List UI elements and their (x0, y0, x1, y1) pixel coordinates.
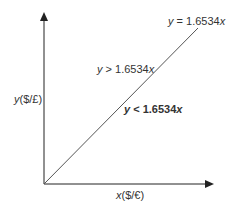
label-unit: ($/£) (20, 93, 43, 105)
y-axis-label: y($/£) (14, 94, 42, 105)
region-below-label: y < 1.6534x (124, 104, 182, 115)
label-text: > 1.6534 (103, 63, 149, 75)
exchange-rate-diagram: y = 1.6534x y > 1.6534x y < 1.6534x y($/… (0, 0, 235, 209)
label-unit: ($/€) (122, 189, 145, 201)
label-text: < 1.6534 (130, 103, 176, 115)
x-axis-arrow-icon (205, 180, 214, 188)
boundary-line-label: y = 1.6534x (168, 16, 225, 27)
region-above-label: y > 1.6534x (97, 64, 154, 75)
label-text: = 1.6534 (174, 15, 220, 27)
label-var: x (220, 15, 226, 27)
x-axis-label: x($/€) (116, 190, 144, 201)
y-axis-arrow-icon (40, 12, 48, 21)
label-var: x (176, 103, 182, 115)
label-var: x (149, 63, 155, 75)
